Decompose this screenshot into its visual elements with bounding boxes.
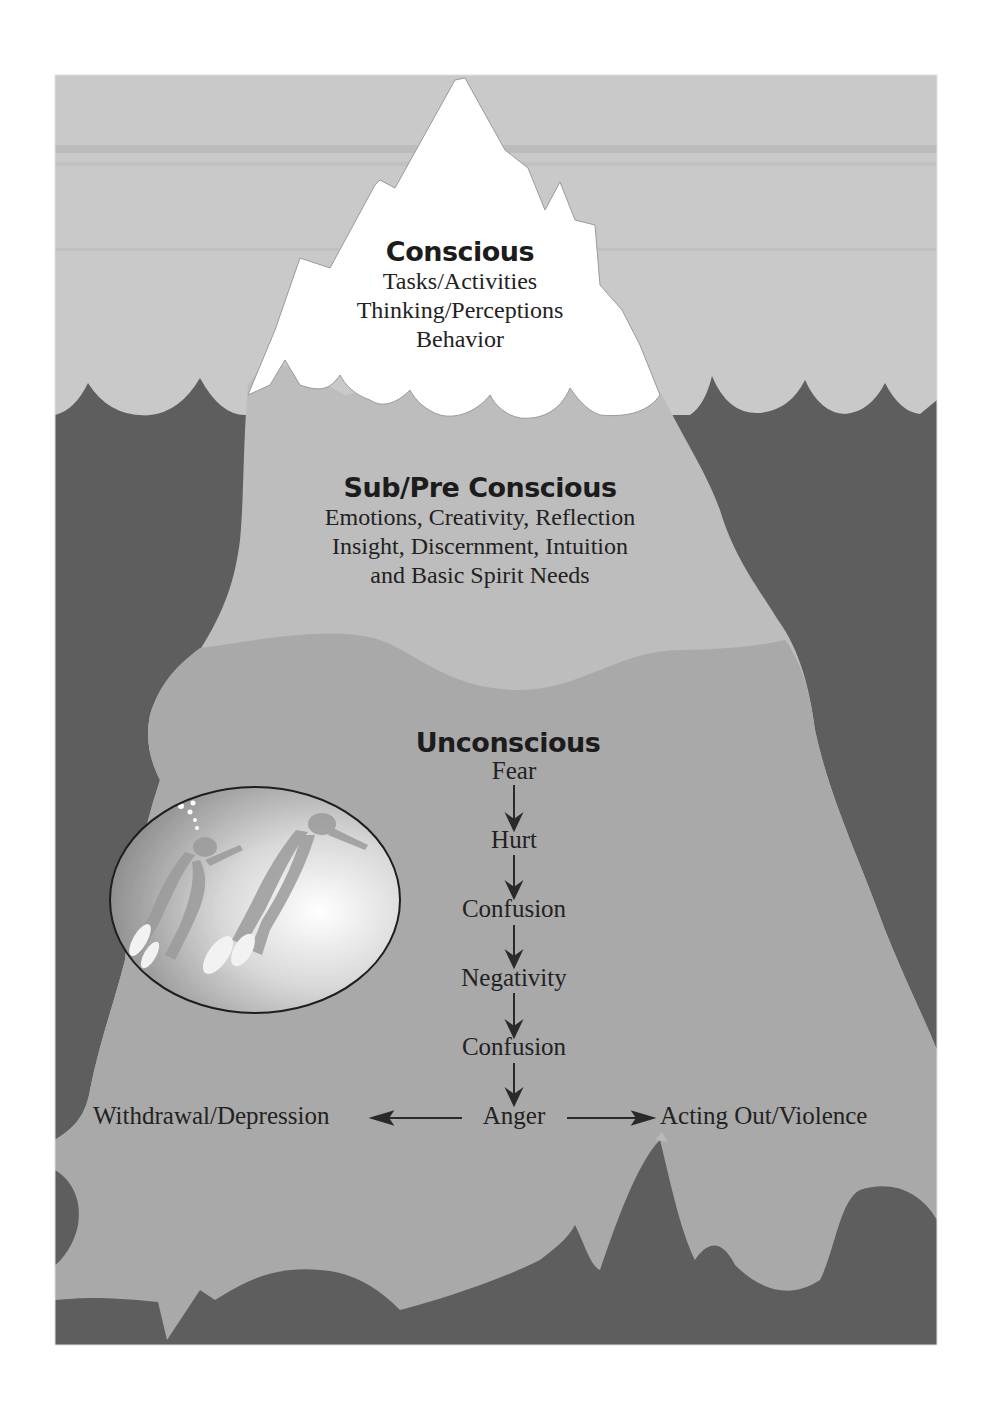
subconscious-line: Insight, Discernment, Intuition xyxy=(280,532,680,561)
subconscious-line: Emotions, Creativity, Reflection xyxy=(280,503,680,532)
conscious-section: Conscious Tasks/Activities Thinking/Perc… xyxy=(300,236,620,354)
chain-item-fear: Fear xyxy=(492,757,536,785)
chain-item-confusion-2: Confusion xyxy=(462,1033,566,1061)
branch-acting-out-violence: Acting Out/Violence xyxy=(660,1102,867,1130)
conscious-line: Behavior xyxy=(300,325,620,354)
divers-inset-image xyxy=(110,787,400,1013)
conscious-line: Thinking/Perceptions xyxy=(300,296,620,325)
chain-item-confusion: Confusion xyxy=(462,895,566,923)
conscious-heading: Conscious xyxy=(300,236,620,267)
subconscious-line: and Basic Spirit Needs xyxy=(280,561,680,590)
chain-item-negativity: Negativity xyxy=(461,964,567,992)
conscious-line: Tasks/Activities xyxy=(300,267,620,296)
subconscious-section: Sub/Pre Conscious Emotions, Creativity, … xyxy=(280,472,680,590)
unconscious-heading: Unconscious xyxy=(383,727,633,758)
subconscious-heading: Sub/Pre Conscious xyxy=(280,472,680,503)
branch-withdrawal-depression: Withdrawal/Depression xyxy=(93,1102,329,1130)
chain-item-anger: Anger xyxy=(483,1102,545,1130)
chain-item-hurt: Hurt xyxy=(491,826,537,854)
iceberg-illustration xyxy=(0,0,991,1410)
iceberg-diagram: Conscious Tasks/Activities Thinking/Perc… xyxy=(0,0,991,1410)
